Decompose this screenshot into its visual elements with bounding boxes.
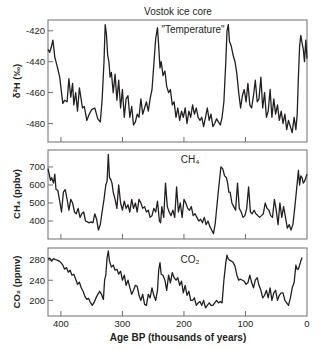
y-tick-label: 240 bbox=[29, 275, 45, 286]
x-ticks-ch4 bbox=[61, 234, 246, 239]
ch4-line bbox=[48, 154, 307, 233]
y-tick-label: 280 bbox=[29, 254, 45, 265]
x-axis-label: Age BP (thousands of years) bbox=[110, 332, 247, 343]
figure-title: Vostok ice core bbox=[144, 6, 212, 17]
vostok-ice-core-figure: Vostok ice core "Temperature" δ²H (‰) -4… bbox=[0, 0, 319, 350]
panel-label-co2: CO₂ bbox=[181, 254, 200, 265]
x-ticks-temperature bbox=[61, 137, 246, 142]
panel-frame bbox=[48, 248, 307, 316]
y-axis-label-temperature: δ²H (‰) bbox=[11, 64, 22, 98]
y-tick-label: 600 bbox=[29, 179, 45, 190]
x-tick-label: 200 bbox=[176, 318, 192, 329]
y-ticks-ch4: 700600500400 bbox=[29, 161, 53, 226]
panel-frame bbox=[48, 20, 307, 142]
panel-co2: CO₂ CO₂ (ppmv) 280240200 bbox=[11, 248, 307, 316]
y-tick-label: 500 bbox=[29, 197, 45, 208]
temperature-line bbox=[48, 25, 307, 133]
panel-ch4: CH₄ CH₄ (ppbv) 700600500400 bbox=[11, 150, 307, 239]
y-tick-label: 700 bbox=[29, 161, 45, 172]
y-tick-label: -480 bbox=[26, 118, 45, 129]
y-ticks-co2: 280240200 bbox=[29, 254, 53, 305]
y-tick-label: 400 bbox=[29, 215, 45, 226]
panel-label-temperature: "Temperature" bbox=[161, 24, 225, 35]
y-tick-label: -460 bbox=[26, 87, 45, 98]
y-tick-label: 200 bbox=[29, 295, 45, 306]
y-ticks-temperature: -420-440-460-480 bbox=[26, 25, 53, 129]
panel-label-ch4: CH₄ bbox=[181, 154, 200, 165]
co2-line bbox=[48, 251, 302, 308]
y-tick-label: -420 bbox=[26, 25, 45, 36]
y-tick-label: -440 bbox=[26, 56, 45, 67]
x-tick-label: 400 bbox=[53, 318, 69, 329]
x-tick-label: 100 bbox=[238, 318, 254, 329]
x-tick-label: 300 bbox=[115, 318, 131, 329]
y-axis-label-co2: CO₂ (ppmv) bbox=[11, 256, 22, 309]
y-axis-label-ch4: CH₄ (ppbv) bbox=[11, 169, 22, 219]
x-tick-labels: 4003002001000 bbox=[53, 318, 310, 329]
x-tick-label: 0 bbox=[304, 318, 309, 329]
x-ticks-co2 bbox=[61, 311, 246, 316]
panel-temperature: "Temperature" δ²H (‰) -420-440-460-480 bbox=[11, 20, 307, 142]
